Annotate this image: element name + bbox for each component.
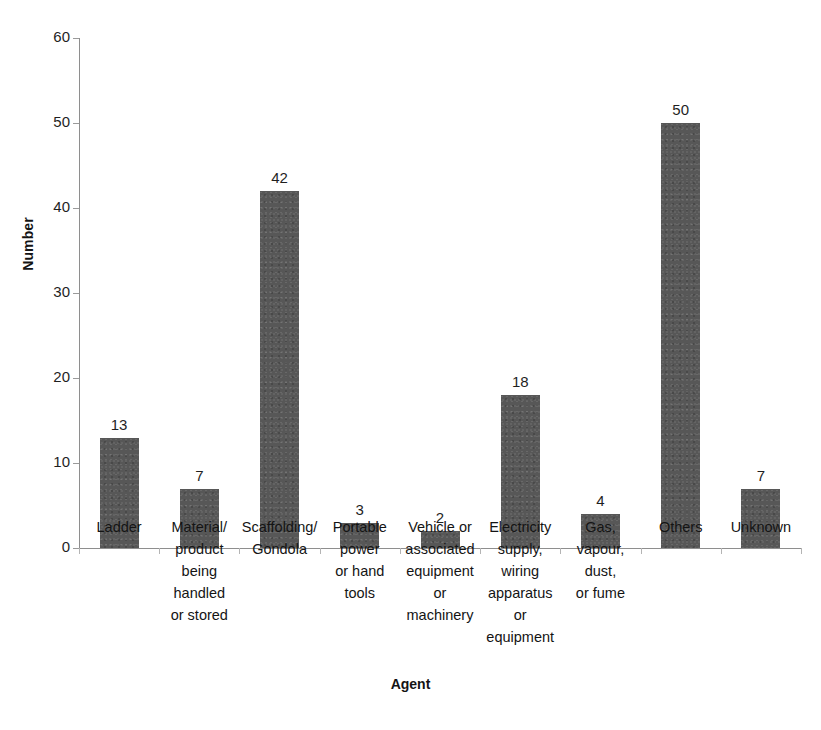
x-axis-category-label-line: equipment [480, 626, 560, 648]
x-axis-category-label-line: machinery [400, 604, 480, 626]
x-axis-category-label-line: dust, [560, 560, 640, 582]
y-axis-tick-label: 20 [53, 368, 70, 385]
bar-value-label: 4 [596, 492, 604, 509]
bar-value-label: 18 [512, 373, 529, 390]
x-axis-category-label-line: Gas, [560, 516, 640, 538]
x-axis-category-label-line: associated [400, 538, 480, 560]
x-axis-category-label-line: power [320, 538, 400, 560]
x-axis-category-label-line: or stored [159, 604, 239, 626]
y-axis-tick-label: 40 [53, 198, 70, 215]
x-axis-category-label-line: Material/ [159, 516, 239, 538]
y-axis-tick [73, 293, 79, 294]
x-axis-category-label-line: supply, [480, 538, 560, 560]
bar-value-label: 13 [111, 416, 128, 433]
bar-chart: Number 01020304050601374232184507 Agent … [0, 0, 821, 730]
plot-area: 01020304050601374232184507 [79, 38, 801, 548]
x-axis-category-label: Others [641, 516, 721, 538]
x-axis-category-label-line: Portable [320, 516, 400, 538]
y-axis-tick [73, 463, 79, 464]
x-axis-category-label-line: or [400, 582, 480, 604]
bar-value-label: 7 [757, 467, 765, 484]
x-axis-tick [721, 548, 722, 554]
y-axis-tick [73, 123, 79, 124]
y-axis-tick-label: 50 [53, 113, 70, 130]
y-axis-title: Number [20, 184, 36, 304]
x-axis-category-label-line: vapour, [560, 538, 640, 560]
y-axis-line [79, 38, 80, 548]
x-axis-category-label-line: apparatus [480, 582, 560, 604]
x-axis-category-label-line: or fume [560, 582, 640, 604]
x-axis-category-label-line: Ladder [79, 516, 159, 538]
x-axis-category-label: Ladder [79, 516, 159, 538]
x-axis-category-label-line: or hand [320, 560, 400, 582]
y-axis-tick [73, 208, 79, 209]
y-axis-tick-label: 10 [53, 453, 70, 470]
x-axis-tick [79, 548, 80, 554]
x-axis-category-label-line: wiring [480, 560, 560, 582]
bar-value-label: 42 [271, 169, 288, 186]
y-axis-tick-label: 60 [53, 28, 70, 45]
x-axis-category-label: Electricitysupply,wiringapparatusorequip… [480, 516, 560, 648]
x-axis-category-label-line: tools [320, 582, 400, 604]
x-axis-category-label-line: Electricity [480, 516, 560, 538]
x-axis-category-label: Unknown [721, 516, 801, 538]
bar: 42 [260, 191, 299, 548]
x-axis-category-label: Portablepoweror handtools [320, 516, 400, 604]
x-axis-tick [641, 548, 642, 554]
x-axis-category-label-line: Others [641, 516, 721, 538]
x-axis-category-label-line: Unknown [721, 516, 801, 538]
x-axis-category-label-line: Scaffolding/ [239, 516, 319, 538]
x-axis-category-label-line: handled [159, 582, 239, 604]
x-axis-category-label-line: or [480, 604, 560, 626]
x-axis-category-label-line: Gondola [239, 538, 319, 560]
bar-value-label: 50 [672, 101, 689, 118]
x-axis-category-label: Material/productbeinghandledor stored [159, 516, 239, 626]
x-axis-category-label-line: equipment [400, 560, 480, 582]
bar-value-label: 3 [356, 501, 364, 518]
x-axis-category-label: Vehicle orassociatedequipmentormachinery [400, 516, 480, 626]
y-axis-tick [73, 378, 79, 379]
y-axis-tick-label: 30 [53, 283, 70, 300]
bar: 50 [661, 123, 700, 548]
x-axis-category-label-line: being [159, 560, 239, 582]
x-axis-category-label: Gas,vapour,dust,or fume [560, 516, 640, 604]
x-axis-title: Agent [0, 676, 821, 692]
x-axis-category-label-line: product [159, 538, 239, 560]
bar-value-label: 7 [195, 467, 203, 484]
x-axis-tick [801, 548, 802, 554]
y-axis-tick-label: 0 [62, 538, 70, 555]
y-axis-tick [73, 38, 79, 39]
x-axis-category-label-line: Vehicle or [400, 516, 480, 538]
x-axis-category-label: Scaffolding/Gondola [239, 516, 319, 560]
